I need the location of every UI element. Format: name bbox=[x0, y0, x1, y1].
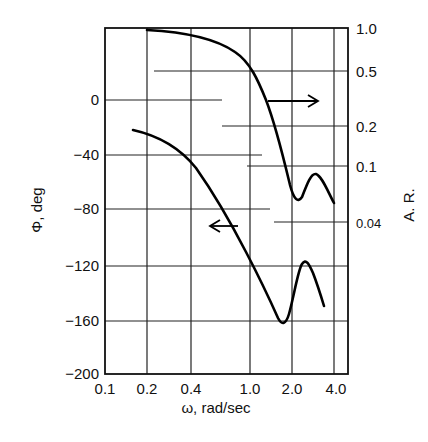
y-tick-0: 0 bbox=[91, 91, 99, 108]
y2-tick-3: 0.1 bbox=[356, 158, 377, 175]
y2-tick-1: 0.5 bbox=[356, 63, 377, 80]
right-axis-ticks: 1.0 0.5 0.2 0.1 0.04 bbox=[356, 20, 381, 231]
plot-frame bbox=[105, 28, 348, 374]
x-tick-0: 0.1 bbox=[95, 380, 116, 397]
bode-chart: 0 −40 −80 −120 −160 −200 1.0 0.5 0.2 0.1… bbox=[0, 0, 428, 442]
left-axis-ticks: 0 −40 −80 −120 −160 −200 bbox=[65, 91, 99, 382]
y2-tick-4: 0.04 bbox=[356, 216, 381, 231]
horizontal-gridlines bbox=[105, 71, 348, 321]
x-tick-4: 2.0 bbox=[282, 380, 303, 397]
x-tick-2: 0.4 bbox=[181, 380, 202, 397]
y-tick-1: −40 bbox=[74, 146, 99, 163]
x-axis-title: ω, rad/sec bbox=[181, 399, 251, 416]
y-tick-2: −80 bbox=[74, 200, 99, 217]
x-tick-1: 0.2 bbox=[137, 380, 158, 397]
x-tick-3: 1.0 bbox=[240, 380, 261, 397]
x-tick-5: 4.0 bbox=[326, 380, 347, 397]
y-tick-3: −120 bbox=[65, 257, 99, 274]
arrow-right-icon bbox=[268, 95, 318, 107]
x-axis-ticks: 0.1 0.2 0.4 1.0 2.0 4.0 bbox=[95, 380, 347, 397]
y-tick-4: −160 bbox=[65, 312, 99, 329]
ar-curve bbox=[147, 30, 334, 203]
y2-tick-2: 0.2 bbox=[356, 118, 377, 135]
y2-axis-title: A. R. bbox=[400, 188, 417, 221]
y-axis-title: Φ, deg bbox=[28, 187, 45, 232]
y2-tick-0: 1.0 bbox=[356, 20, 377, 37]
vertical-gridlines bbox=[147, 28, 334, 374]
